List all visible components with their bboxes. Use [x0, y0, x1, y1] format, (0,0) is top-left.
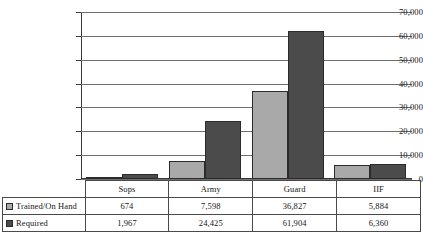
table-column-header: Army	[169, 181, 253, 198]
bar-group	[81, 12, 164, 179]
y-axis-tick-mark	[76, 12, 81, 13]
table-cell: 24,425	[169, 215, 253, 232]
table-cell: 61,904	[253, 215, 337, 232]
legend-entry: Required	[3, 215, 86, 232]
y-axis-tick-label: 40,000	[361, 80, 423, 89]
y-axis-tick-label: 10,000	[361, 151, 423, 160]
legend-label: Trained/On Hand	[16, 201, 77, 211]
y-axis-tick-label: 70,000	[361, 8, 423, 17]
chart-data-table: SopsArmyGuardIIFTrained/On Hand6747,5983…	[2, 180, 421, 233]
table-row: Trained/On Hand6747,59836,8275,884	[3, 198, 421, 215]
bar	[252, 91, 288, 179]
chart-plot-region: 010,00020,00030,00040,00050,00060,00070,…	[0, 0, 423, 180]
y-axis-tick-mark	[76, 60, 81, 61]
y-axis-tick-mark	[76, 155, 81, 156]
table-column-header: IIF	[337, 181, 421, 198]
bar	[169, 161, 205, 179]
y-axis-tick-label: 50,000	[361, 56, 423, 65]
y-axis-tick-label: 30,000	[361, 103, 423, 112]
y-axis-tick-mark	[76, 107, 81, 108]
bar	[288, 31, 324, 179]
legend-entry: Trained/On Hand	[3, 198, 86, 215]
table-corner-cell	[3, 181, 86, 198]
y-axis-tick-label: 20,000	[361, 127, 423, 136]
legend-swatch-icon	[6, 203, 13, 210]
bar	[205, 121, 241, 179]
bar	[122, 174, 158, 179]
legend-label: Required	[16, 218, 48, 228]
table-header-row: SopsArmyGuardIIF	[3, 181, 421, 198]
data-table: SopsArmyGuardIIFTrained/On Hand6747,5983…	[2, 180, 421, 232]
y-axis-tick-mark	[76, 84, 81, 85]
table-cell: 7,598	[169, 198, 253, 215]
bar-chart-figure: 010,00020,00030,00040,00050,00060,00070,…	[0, 0, 423, 234]
table-column-header: Sops	[85, 181, 169, 198]
table-cell: 5,884	[337, 198, 421, 215]
legend-swatch-icon	[6, 220, 13, 227]
y-axis-tick-mark	[76, 131, 81, 132]
table-cell: 36,827	[253, 198, 337, 215]
table-row: Required1,96724,42561,9046,360	[3, 215, 421, 232]
y-axis-tick-mark	[76, 36, 81, 37]
table-cell: 6,360	[337, 215, 421, 232]
y-axis-tick-label: 60,000	[361, 32, 423, 41]
table-column-header: Guard	[253, 181, 337, 198]
table-cell: 674	[85, 198, 169, 215]
bar-group	[164, 12, 247, 179]
bar	[86, 177, 122, 179]
table-cell: 1,967	[85, 215, 169, 232]
bar-group	[247, 12, 330, 179]
